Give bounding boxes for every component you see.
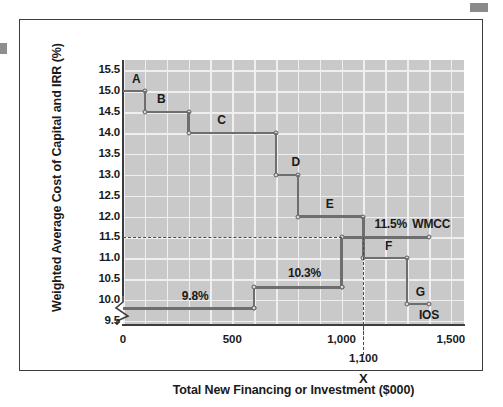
figure-frame: 9.510.010.511.011.512.012.513.013.514.01… [19, 19, 483, 371]
y-tick-label: 12.0 [98, 210, 120, 222]
y-tick-labels: 9.510.010.511.011.512.012.513.013.514.01… [76, 20, 120, 407]
grid-line-horizontal [123, 70, 464, 72]
y-tick-label: 15.0 [98, 84, 120, 96]
grid-line-vertical [232, 60, 234, 325]
ios-segment-e [298, 215, 364, 217]
ios-step-a: A [132, 72, 140, 86]
wmcc-optimal-hline [123, 237, 342, 238]
x-axis-line [122, 324, 465, 326]
wmcc-point-2-end [427, 235, 432, 240]
wmcc-point-2-low [339, 285, 344, 290]
ios-step-f: F [385, 239, 392, 253]
ios-step-c: C [217, 113, 225, 127]
grid-line-vertical [167, 60, 169, 325]
ios-segment-b [145, 111, 189, 113]
y-tick-label: 9.5 [105, 314, 120, 326]
y-tick-label: 11.5 [99, 230, 120, 242]
wmcc-segment-1 [254, 286, 341, 288]
y-tick-label: 14.0 [98, 126, 120, 138]
ios-point-e-start [295, 214, 300, 219]
ios-point-d-start [274, 172, 279, 177]
y-tick-label: 13.5 [98, 147, 120, 159]
ios-step-b: B [157, 92, 165, 106]
wmcc-curve-label: WMCC [412, 217, 450, 231]
ios-segment-f [363, 257, 407, 259]
y-tick-label: 13.0 [98, 168, 120, 180]
page-edge-mark-left [0, 43, 7, 54]
ios-point-g-end [427, 302, 432, 307]
ios-riser-g [406, 258, 408, 304]
ios-segment-c [189, 132, 276, 134]
x-tick-label: 500 [223, 333, 242, 345]
y-tick-label: 11.0 [99, 251, 120, 263]
grid-line-horizontal [123, 133, 464, 135]
ios-point-c-start [186, 131, 191, 136]
y-tick-label: 10.0 [98, 293, 120, 305]
optimal-budget-label: 1,100 [349, 352, 378, 364]
wmcc-rate-103: 10.3% [288, 266, 321, 280]
page-edge-mark-top [470, 3, 488, 12]
grid-line-horizontal [123, 300, 464, 302]
optimal-budget-vline-tail [363, 325, 364, 345]
grid-line-horizontal [123, 258, 464, 260]
y-tick-label: 12.5 [98, 189, 120, 201]
x-tick-label: 0 [120, 333, 126, 345]
wmcc-segment-0 [123, 307, 254, 309]
y-axis-line [122, 60, 124, 296]
wmcc-rate-98: 9.8% [182, 289, 209, 303]
grid-line-vertical [210, 60, 212, 325]
ios-point-b-start [142, 110, 147, 115]
grid-line-horizontal [123, 321, 464, 323]
wmcc-rate-115: 11.5% [375, 217, 407, 231]
grid-line-vertical [429, 60, 431, 325]
grid-line-horizontal [123, 91, 464, 93]
y-tick-label: 15.5 [98, 63, 120, 75]
grid-line-vertical [451, 60, 453, 325]
x-tick-label: 1,000 [327, 333, 356, 345]
grid-line-vertical [385, 60, 387, 325]
ios-step-d: D [291, 155, 299, 169]
ios-step-e: E [326, 197, 334, 211]
y-tick-label: 10.5 [98, 272, 120, 284]
wmcc-point-1-low [252, 306, 257, 311]
ios-riser-d [275, 133, 277, 175]
grid-line-horizontal [123, 196, 464, 198]
ios-riser-e [297, 175, 299, 217]
grid-line-vertical [189, 60, 191, 325]
y-tick-label: 14.5 [98, 105, 120, 117]
x-tick-label: 1,500 [436, 333, 465, 345]
wmcc-riser-2 [340, 237, 342, 287]
x-axis-title: Total New Financing or Investment ($000) [123, 383, 464, 397]
y-axis-title: Weighted Average Cost of Capital and IRR… [50, 62, 64, 312]
wmcc-point-1-high [252, 285, 257, 290]
ios-step-g: G [416, 285, 425, 299]
ios-point-g-start [405, 302, 410, 307]
ios-curve-label: IOS [419, 308, 439, 322]
